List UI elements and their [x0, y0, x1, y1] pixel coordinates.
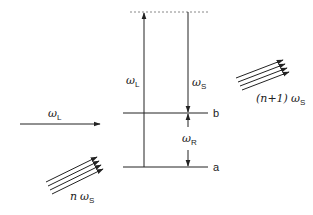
- stokes-transition-label: ωS: [192, 76, 206, 91]
- level-a-label: a: [213, 161, 220, 173]
- incident-stokes-bundle: [46, 157, 103, 194]
- incident-stokes-label: nωS: [70, 190, 94, 205]
- outgoing-stokes-bundle: [236, 60, 289, 90]
- outgoing-stokes-label: (n+1)ωS: [256, 92, 305, 107]
- pump-transition-label: ωL: [126, 74, 140, 89]
- level-b-label: b: [213, 107, 219, 119]
- incident-laser-label: ωL: [48, 107, 62, 122]
- raman-transition-label: ωR: [182, 132, 197, 147]
- raman-diagram: b a ωL ωS ωR ωL nωS (n+1)ωS: [0, 0, 313, 215]
